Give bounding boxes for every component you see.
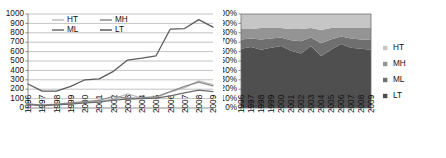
y-axis-tick-label: 900 [10, 19, 24, 28]
y-axis-tick-label: 500 [10, 56, 24, 65]
legend-label-ml: ML [67, 25, 79, 34]
y-axis-tick-label: 70% [223, 37, 237, 46]
stacked-area-chart-svg: 0%10%20%30%40%50%60%70%80%90%100%1996199… [223, 0, 446, 158]
stacked-area-chart-legend: HTMHMLLT [383, 43, 406, 100]
y-axis-tick-label: 60% [223, 47, 237, 56]
area-band-ht [241, 14, 371, 30]
legend-label-mh: MH [115, 15, 128, 24]
x-axis-tick-label: 2000 [277, 94, 286, 113]
x-axis-tick-label: 2009 [367, 94, 376, 113]
y-axis-tick-label: 10% [223, 94, 237, 103]
stacked-area-chart-panel: 0%10%20%30%40%50%60%70%80%90%100%1996199… [223, 0, 446, 158]
x-axis-tick-label: 2004 [317, 94, 326, 113]
legend-label-mh: MH [393, 59, 406, 68]
legend-swatch-ml [383, 78, 387, 82]
x-axis-tick-label: 1997 [38, 94, 47, 113]
y-axis-tick-label: 0% [225, 103, 237, 112]
x-axis-tick-label: 2003 [307, 94, 316, 113]
legend-label-lt: LT [115, 25, 124, 34]
x-axis-tick-label: 1997 [247, 94, 256, 113]
legend-label-ht: HT [67, 15, 78, 24]
y-axis-tick-label: 20% [223, 84, 237, 93]
y-axis-tick-label: 100% [223, 9, 237, 18]
y-axis-tick-label: 40% [223, 66, 237, 75]
legend-swatch-mh [383, 62, 387, 66]
y-axis-tick-label: 100 [10, 94, 24, 103]
line-chart-panel: 0100200300400500600700800900100019961997… [0, 0, 223, 158]
x-axis-tick-label: 1998 [257, 94, 266, 113]
y-axis-tick-label: 1000 [6, 9, 25, 18]
x-axis-tick-label: 2001 [287, 94, 296, 113]
legend-label-lt: LT [393, 91, 402, 100]
x-axis-tick-label: 2009 [209, 94, 218, 113]
legend-swatch-ht [383, 46, 387, 50]
x-axis-tick-label: 2006 [167, 94, 176, 113]
x-axis-tick-label: 2005 [327, 94, 336, 113]
x-axis-tick-label: 1996 [237, 94, 246, 113]
x-axis-tick-label: 2006 [337, 94, 346, 113]
y-axis-tick-label: 30% [223, 75, 237, 84]
x-axis-tick-label: 2002 [297, 94, 306, 113]
x-axis-tick-label: 2000 [81, 94, 90, 113]
legend-swatch-lt [383, 94, 387, 98]
x-axis-tick-label: 2003 [124, 94, 133, 113]
y-axis-tick-label: 800 [10, 28, 24, 37]
y-axis-tick-label: 700 [10, 37, 24, 46]
y-axis-tick-label: 200 [10, 84, 24, 93]
line-chart-legend: HTMHMLLT [52, 15, 128, 34]
legend-label-ml: ML [393, 75, 405, 84]
y-axis-tick-label: 50% [223, 56, 237, 65]
line-chart-svg: 0100200300400500600700800900100019961997… [0, 0, 223, 158]
y-axis-tick-label: 300 [10, 75, 24, 84]
x-axis-tick-label: 2008 [195, 94, 204, 113]
x-axis-tick-label: 1999 [267, 94, 276, 113]
y-axis-tick-label: 400 [10, 66, 24, 75]
y-axis-tick-label: 600 [10, 47, 24, 56]
legend-label-ht: HT [393, 43, 404, 52]
y-axis-tick-label: 90% [223, 19, 237, 28]
y-axis-tick-label: 80% [223, 28, 237, 37]
x-axis-tick-label: 2001 [95, 94, 104, 113]
x-axis-tick-label: 2007 [181, 94, 190, 113]
x-axis-tick-label: 2007 [347, 94, 356, 113]
two-panel-chart-figure: 0100200300400500600700800900100019961997… [0, 0, 446, 158]
x-axis-tick-label: 2008 [357, 94, 366, 113]
